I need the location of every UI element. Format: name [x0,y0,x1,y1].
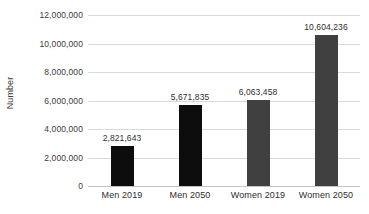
bar-value-label: 6,063,458 [239,87,278,97]
y-axis-title-label: Number [5,77,15,110]
x-axis-category-label: Women 2050 [299,190,353,200]
bar-value-label: 10,604,236 [304,22,348,32]
bar [315,35,338,186]
bar [179,105,202,186]
bar [111,146,134,186]
gridline [88,186,360,187]
bar-value-label: 2,821,643 [103,133,142,143]
y-axis-title: Number [0,0,20,186]
gridline [88,15,360,16]
x-axis-category-label: Men 2050 [170,190,211,200]
bar-value-label: 5,671,835 [171,92,210,102]
x-axis-category-label: Women 2019 [231,190,285,200]
x-axis-category-labels: Men 2019Men 2050Women 2019Women 2050 [88,190,360,206]
x-axis-category-label: Men 2019 [102,190,143,200]
bar-chart: Number 02,000,0004,000,0006,000,0008,000… [0,0,369,214]
plot-area: 2,821,6435,671,8356,063,45810,604,236 [88,15,360,186]
bar [247,100,270,186]
